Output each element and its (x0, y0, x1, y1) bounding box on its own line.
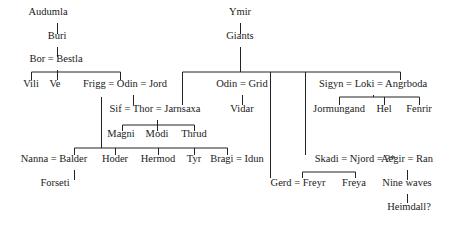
node-thrud: Thrud (181, 128, 207, 140)
node-vili: Vili (23, 78, 39, 90)
node-sif-thor-jarnsaxa: Sif = Thor = Jarnsaxa (110, 103, 201, 115)
node-nanna-balder: Nanna = Balder (21, 153, 88, 165)
node-ve: Ve (49, 78, 60, 90)
node-forseti: Forseti (40, 177, 69, 189)
node-odin-grid: Odin = Grid (216, 78, 267, 90)
node-giants: Giants (226, 30, 253, 42)
node-bragi-idun: Bragi = Idun (210, 153, 264, 165)
node-hel: Hel (376, 103, 391, 115)
node-aegir-ran: Aegir = Ran (381, 153, 433, 165)
node-magni: Magni (107, 128, 134, 140)
node-fenrir: Fenrir (406, 103, 432, 115)
node-freya: Freya (342, 177, 366, 189)
node-frigg-odin-jord: Frigg = Odin = Jord (83, 78, 167, 90)
node-gerd-freyr: Gerd = Freyr (271, 177, 326, 189)
node-hermod: Hermod (141, 153, 175, 165)
node-heimdall: Heimdall? (387, 201, 431, 213)
node-nine-waves: Nine waves (382, 177, 431, 189)
node-vidar: Vidar (230, 103, 253, 115)
node-bor-bestla: Bor = Bestla (29, 53, 82, 65)
node-jormungand: Jormungand (313, 103, 365, 115)
family-tree-diagram: AudumlaBuriBor = BestlaViliVeFrigg = Odi… (0, 0, 450, 225)
node-audumla: Audumla (28, 6, 67, 18)
node-buri: Buri (48, 30, 67, 42)
node-modi: Modi (146, 128, 169, 140)
node-tyr: Tyr (187, 153, 201, 165)
node-hoder: Hoder (102, 153, 128, 165)
node-ymir: Ymir (229, 6, 251, 18)
node-sigyn-loki-angrboda: Sigyn = Loki = Angrboda (319, 78, 427, 90)
